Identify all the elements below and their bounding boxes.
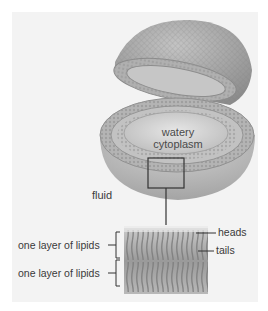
layer-brackets: [108, 232, 120, 286]
label-cytoplasm: cytoplasm: [148, 138, 208, 150]
membrane-cap: [111, 20, 252, 110]
label-heads: heads: [218, 227, 247, 238]
bilayer-closeup: [124, 226, 208, 294]
label-watery-cytoplasm: watery cytoplasm: [148, 126, 208, 150]
membrane-illustration: [0, 0, 268, 311]
label-watery: watery: [148, 126, 208, 138]
label-fluid: fluid: [92, 190, 112, 201]
label-bottom-lipid-layer: one layer of lipids: [18, 268, 100, 279]
label-top-lipid-layer: one layer of lipids: [18, 240, 100, 251]
label-tails: tails: [216, 245, 235, 256]
